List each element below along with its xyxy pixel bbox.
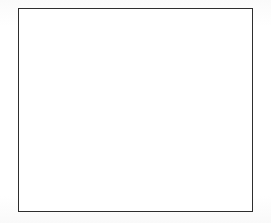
image-canvas: Blank grid sheet <box>0 0 271 223</box>
grid-border <box>18 8 253 212</box>
graph-paper-grid <box>18 8 253 212</box>
